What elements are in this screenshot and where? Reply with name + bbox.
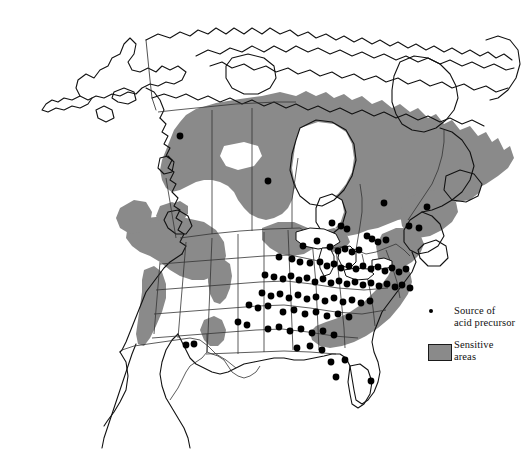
source-dot — [276, 254, 283, 261]
source-dot — [298, 326, 305, 333]
source-dot — [268, 293, 275, 300]
source-dot — [191, 341, 198, 348]
north-america-map — [0, 0, 526, 450]
map-figure: Source of acid precursor Sensitive areas — [0, 0, 526, 450]
legend-sensitive-marker — [428, 339, 454, 361]
source-dot — [183, 342, 190, 349]
source-dot — [335, 248, 342, 255]
legend-entry-sensitive: Sensitive areas — [428, 339, 524, 364]
source-dot — [342, 357, 349, 364]
source-dot — [396, 269, 403, 276]
source-dot — [328, 359, 335, 366]
source-dot — [309, 330, 316, 337]
source-dot — [403, 266, 410, 273]
coastline-victoria-island — [226, 54, 276, 94]
source-dot — [317, 259, 324, 266]
border-state-horiz-5 — [206, 351, 336, 354]
source-dot — [424, 204, 431, 211]
source-dot — [313, 309, 320, 316]
source-dot — [246, 302, 253, 309]
source-dot — [346, 263, 353, 270]
source-dot — [384, 281, 391, 288]
source-dot — [331, 261, 338, 268]
coastline-gulf-mexico — [160, 334, 190, 448]
source-dot — [255, 305, 262, 312]
source-dot — [383, 237, 390, 244]
source-dot — [294, 345, 301, 352]
source-dot — [382, 268, 389, 275]
source-dot — [329, 220, 336, 227]
source-dot — [368, 280, 375, 287]
source-dot — [352, 279, 359, 286]
source-dot — [259, 290, 266, 297]
source-dot — [265, 326, 272, 333]
source-dot — [320, 328, 327, 335]
border-texas-rio-grande — [170, 352, 207, 400]
source-dot — [336, 278, 343, 285]
coastline-florida — [348, 364, 372, 408]
source-dot — [335, 311, 342, 318]
source-dot — [353, 266, 360, 273]
sensitive-area-southern-rockies — [200, 316, 226, 346]
source-dot — [368, 266, 375, 273]
legend-source-label: Source of acid precursor — [454, 305, 515, 330]
source-dot — [297, 259, 304, 266]
source-dot — [289, 256, 296, 263]
source-dot — [319, 347, 326, 354]
source-dot — [177, 133, 184, 140]
source-dot — [322, 298, 329, 305]
source-dot — [300, 243, 307, 250]
source-dot — [331, 332, 338, 339]
legend-source-marker — [428, 305, 454, 313]
source-dot — [304, 275, 311, 282]
source-dot — [324, 313, 331, 320]
source-dot — [287, 328, 294, 335]
source-dot — [358, 300, 365, 307]
source-dot — [291, 307, 298, 314]
source-dot — [389, 265, 396, 272]
source-dot — [312, 279, 319, 286]
source-dot — [376, 283, 383, 290]
source-dot — [280, 276, 287, 283]
source-dot — [314, 238, 321, 245]
source-dot — [342, 246, 349, 253]
coastline-arctic-channels — [210, 62, 508, 92]
source-dot — [360, 282, 367, 289]
source-dot — [265, 303, 272, 310]
source-dot — [296, 277, 303, 284]
source-dot — [262, 272, 269, 279]
source-dot-icon — [429, 309, 433, 313]
source-dot — [375, 239, 382, 246]
source-dot — [331, 295, 338, 302]
coastline-mexico-west — [102, 344, 136, 448]
source-dot — [338, 265, 345, 272]
sensitive-area-swatch-icon — [428, 344, 452, 361]
source-dot — [277, 291, 284, 298]
border-alaska-yukon — [146, 40, 156, 110]
source-dot — [302, 311, 309, 318]
source-dot — [406, 223, 413, 230]
source-dot — [286, 295, 293, 302]
source-dot — [349, 249, 356, 256]
source-dot — [328, 280, 335, 287]
coastline-alaska-kodiak — [96, 106, 114, 122]
source-dot — [375, 264, 382, 271]
source-dot — [265, 178, 272, 185]
source-dot — [280, 309, 287, 316]
source-dot — [344, 281, 351, 288]
source-dot — [407, 285, 414, 292]
source-dot — [333, 374, 340, 381]
source-dot — [340, 299, 347, 306]
coastline-alaska-se — [146, 88, 164, 118]
source-dot — [324, 263, 331, 270]
source-dot — [307, 260, 314, 267]
source-dot — [346, 314, 353, 321]
source-dot — [235, 319, 242, 326]
source-dot — [295, 292, 302, 299]
coastline-alaska-islands — [112, 88, 136, 104]
legend-entry-source: Source of acid precursor — [428, 305, 524, 330]
source-dot — [381, 200, 388, 207]
source-dot — [344, 226, 351, 233]
map-legend: Source of acid precursor Sensitive areas — [428, 305, 524, 373]
coastline-baja — [104, 352, 128, 426]
